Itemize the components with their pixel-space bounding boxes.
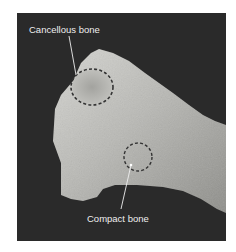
cancellous-texture <box>72 70 112 104</box>
compact-bone-label: Compact bone <box>87 213 149 224</box>
cancellous-leader-line <box>69 36 76 75</box>
bone-photograph: Cancellous bone Compact bone <box>17 13 226 241</box>
cancellous-bone-label: Cancellous bone <box>29 24 100 35</box>
bone-illustration <box>17 13 226 241</box>
